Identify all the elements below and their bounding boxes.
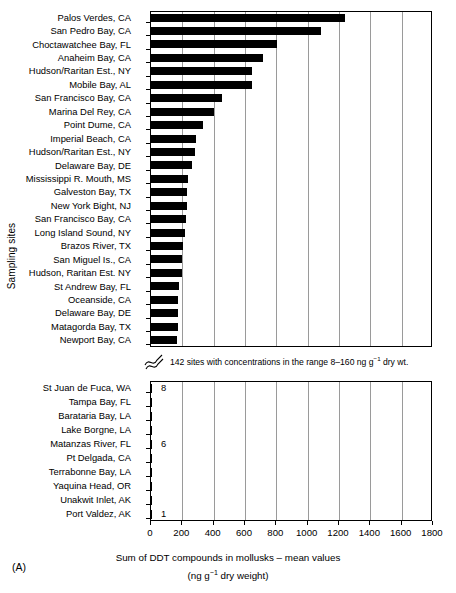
category-label: Matanzas River, FL xyxy=(0,439,138,448)
category-tick xyxy=(146,434,150,435)
bar-matagorda-bay-tx xyxy=(151,323,178,331)
category-label: Mississippi R. Mouth, MS xyxy=(0,174,138,183)
category-label: Matagorda Bay, TX xyxy=(0,322,138,331)
category-tick xyxy=(146,35,150,36)
category-label: Hudson/Raritan Est., NY xyxy=(0,66,138,75)
bar-st-andrew-bay-fl xyxy=(151,282,179,290)
bar-san-francisco-bay-ca xyxy=(151,215,186,223)
category-label: Imperial Beach, CA xyxy=(0,134,138,143)
bar-hudson-raritan-est-ny xyxy=(151,67,252,75)
category-tick xyxy=(146,344,150,345)
category-tick xyxy=(146,210,150,211)
bar-point-dume-ca xyxy=(151,121,203,129)
gridline-800 xyxy=(276,382,277,520)
bar-new-york-bight-nj xyxy=(151,202,187,210)
category-label: Mobile Bay, AL xyxy=(0,80,138,89)
x-tick-1400 xyxy=(369,521,370,525)
category-label: St Juan de Fuca, WA xyxy=(0,383,138,392)
axis-break-note-suffix: dry wt. xyxy=(381,357,409,367)
bar-unakwit-inlet-ak xyxy=(151,496,152,505)
bar-san-francisco-bay-ca xyxy=(151,94,222,102)
category-tick xyxy=(146,103,150,104)
bar-san-miguel-is-ca xyxy=(151,255,182,263)
bar-value-label: 8 xyxy=(161,383,166,392)
bar-hudson-raritan-est-ny xyxy=(151,269,182,277)
bar-barataria-bay-la xyxy=(151,412,152,421)
bar-mississippi-r-mouth-ms xyxy=(151,175,188,183)
category-label: Palos Verdes, CA xyxy=(0,13,138,22)
category-label: Unakwit Inlet, AK xyxy=(0,495,138,504)
category-label: Point Dume, CA xyxy=(0,120,138,129)
bar-delaware-bay-de xyxy=(151,309,178,317)
category-tick xyxy=(146,116,150,117)
x-tick-800 xyxy=(275,521,276,525)
category-tick xyxy=(146,392,150,393)
category-tick xyxy=(146,250,150,251)
bar-choctawatchee-bay-fl xyxy=(151,40,277,48)
category-tick xyxy=(146,89,150,90)
category-label: Long Island Sound, NY xyxy=(0,228,138,237)
x-tick-1000 xyxy=(307,521,308,525)
category-label: St Andrew Bay, FL xyxy=(0,282,138,291)
category-tick xyxy=(146,518,150,519)
category-label: Marina Del Rey, CA xyxy=(0,107,138,116)
bar-port-valdez-ak xyxy=(151,510,152,519)
bar-hudson-raritan-est-ny xyxy=(151,148,195,156)
bar-terrabonne-bay-la xyxy=(151,468,152,477)
category-tick xyxy=(146,448,150,449)
bar-yaquina-head-or xyxy=(151,482,152,491)
axis-break-note-text: 142 sites with concentrations in the ran… xyxy=(170,357,374,367)
category-label: Barataria Bay, LA xyxy=(0,411,138,420)
bar-delaware-bay-de xyxy=(151,161,192,169)
category-label: Terrabonne Bay, LA xyxy=(0,467,138,476)
category-tick xyxy=(146,170,150,171)
bar-value-label: 1 xyxy=(161,509,166,518)
axis-break-icon xyxy=(143,352,165,370)
x-axis-title-line2: (ng g−1 dry weight) xyxy=(0,569,456,583)
category-label: Galveston Bay, TX xyxy=(0,187,138,196)
category-tick xyxy=(146,406,150,407)
category-label: Port Valdez, AK xyxy=(0,509,138,518)
category-label: Delaware Bay, DE xyxy=(0,161,138,170)
bar-mobile-bay-al xyxy=(151,81,252,89)
bar-imperial-beach-ca xyxy=(151,135,196,143)
gridline-1400 xyxy=(370,12,371,346)
category-label: San Francisco Bay, CA xyxy=(0,93,138,102)
category-label: Delaware Bay, DE xyxy=(0,308,138,317)
bar-palos-verdes-ca xyxy=(151,14,345,22)
x-tick-200 xyxy=(181,521,182,525)
gridline-600 xyxy=(245,12,246,346)
category-tick xyxy=(146,22,150,23)
x-axis-title: Sum of DDT compounds in mollusks – mean … xyxy=(0,552,456,583)
category-tick xyxy=(146,462,150,463)
category-tick xyxy=(146,490,150,491)
axis-break-note-exponent: −1 xyxy=(374,355,381,362)
category-label: Lake Borgne, LA xyxy=(0,425,138,434)
category-tick xyxy=(146,129,150,130)
category-label: Anaheim Bay, CA xyxy=(0,53,138,62)
bar-lake-borgne-la xyxy=(151,426,152,435)
category-label: Choctawatchee Bay, FL xyxy=(0,40,138,49)
x-tick-label-1800: 1800 xyxy=(412,528,452,538)
category-label: Oceanside, CA xyxy=(0,295,138,304)
category-tick xyxy=(146,143,150,144)
category-tick xyxy=(146,62,150,63)
category-tick xyxy=(146,156,150,157)
bar-oceanside-ca xyxy=(151,296,178,304)
category-label: Pt Delgada, CA xyxy=(0,453,138,462)
bar-anaheim-bay-ca xyxy=(151,54,263,62)
category-tick xyxy=(146,237,150,238)
gridline-1000 xyxy=(308,12,309,346)
category-tick xyxy=(146,264,150,265)
bar-tampa-bay-fl xyxy=(151,398,152,407)
gridline-400 xyxy=(214,12,215,346)
gridline-1600 xyxy=(402,12,403,346)
x-axis-unit-prefix: (ng g xyxy=(187,571,209,582)
bar-matanzas-river-fl xyxy=(151,440,152,449)
figure-panel-a: Sampling sites Palos Verdes, CASan Pedro… xyxy=(0,0,456,593)
category-label: San Miguel Is., CA xyxy=(0,255,138,264)
x-axis-title-line1: Sum of DDT compounds in mollusks – mean … xyxy=(0,552,456,564)
bar-value-label: 6 xyxy=(161,439,166,448)
category-label: San Francisco Bay, CA xyxy=(0,214,138,223)
bar-marina-del-rey-ca xyxy=(151,108,214,116)
